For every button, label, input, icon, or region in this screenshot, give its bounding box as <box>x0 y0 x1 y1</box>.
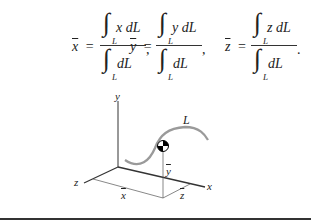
ybar-label: y <box>166 165 171 177</box>
zbar-label: z <box>180 189 184 201</box>
axis-label-z: z <box>74 176 78 188</box>
axis-label-y: y <box>115 90 120 102</box>
z-axis <box>84 167 118 183</box>
centroid-marker-icon <box>158 141 169 152</box>
floor-projection <box>93 179 190 198</box>
xbar-label: x <box>121 189 126 201</box>
bottom-rule <box>0 218 311 220</box>
axis-label-x: x <box>207 180 212 192</box>
centroid-line-diagram <box>0 0 311 222</box>
curve-label-L: L <box>183 113 190 128</box>
x-axis <box>118 167 205 187</box>
